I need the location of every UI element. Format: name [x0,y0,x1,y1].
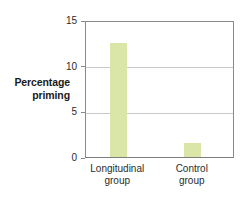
y-axis-title-line-1: Percentage [2,76,70,89]
bar [184,143,201,157]
x-axis-label-line: Control [147,163,237,175]
bar-chart-figure: Percentage priming 051015 Longitudinalgr… [0,0,247,201]
y-axis-tick-label: 10 [51,62,77,72]
y-axis-tick-label: 5 [51,107,77,117]
gridline [86,113,233,114]
plot-area [85,21,234,158]
y-axis-tick-label: 15 [51,16,77,26]
bar [110,43,127,157]
x-axis-label-line: group [147,175,237,187]
x-axis-label: Controlgroup [147,163,237,187]
y-axis-title: Percentage priming [2,76,70,102]
y-axis-tick-label: 0 [51,153,77,163]
gridline [86,67,233,68]
y-axis-title-line-2: priming [2,89,70,102]
